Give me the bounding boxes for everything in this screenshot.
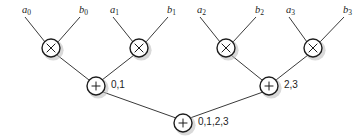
dot-product-diagram: a0b0a1b1a2b2a3b30,12,30,1,2,3 <box>0 0 364 139</box>
input-label-a1: a1 <box>110 5 119 16</box>
input-label-b2: b2 <box>255 5 264 16</box>
input-label-subscript: 2 <box>202 8 206 17</box>
edge-b0-to-mul0 <box>58 17 80 42</box>
input-label-subscript: 3 <box>348 8 352 17</box>
input-label-subscript: 0 <box>84 8 88 17</box>
sum-label-add01: 0,1 <box>111 80 125 90</box>
node-add23[interactable] <box>260 77 282 99</box>
node-add01[interactable] <box>87 77 109 99</box>
edge-mul0-to-add01 <box>57 55 89 80</box>
sum-label-add23: 2,3 <box>284 80 298 90</box>
edge-mul1-to-add01 <box>102 55 134 80</box>
edge-mul3-to-add23 <box>276 55 308 80</box>
input-label-a3: a3 <box>286 5 295 16</box>
input-label-b1: b1 <box>167 5 176 16</box>
edge-a3-to-mul3 <box>289 17 307 42</box>
edge-b3-to-mul3 <box>320 17 344 42</box>
diagram-canvas <box>0 0 364 139</box>
edges-group <box>25 17 344 118</box>
node-mul2[interactable] <box>217 39 239 61</box>
input-label-subscript: 0 <box>27 8 31 17</box>
input-label-subscript: 1 <box>115 8 119 17</box>
node-mul0[interactable] <box>42 39 64 61</box>
edge-mul2-to-add23 <box>231 55 262 80</box>
node-mul1[interactable] <box>130 39 152 61</box>
edge-b1-to-mul1 <box>146 17 168 42</box>
edge-add23-to-add0123 <box>190 92 263 118</box>
sum-label-add0123: 0,1,2,3 <box>198 117 229 127</box>
edge-b2-to-mul2 <box>233 17 256 42</box>
input-label-a0: a0 <box>22 5 31 16</box>
node-mul3[interactable] <box>304 39 326 61</box>
input-label-subscript: 2 <box>260 8 264 17</box>
input-label-subscript: 3 <box>291 8 295 17</box>
edge-a0-to-mul0 <box>25 17 45 42</box>
input-label-a2: a2 <box>197 5 206 16</box>
edge-a2-to-mul2 <box>200 17 220 42</box>
input-label-b0: b0 <box>79 5 88 16</box>
input-label-b3: b3 <box>343 5 352 16</box>
input-label-subscript: 1 <box>172 8 176 17</box>
edge-add01-to-add0123 <box>103 92 176 118</box>
edge-a1-to-mul1 <box>113 17 133 42</box>
